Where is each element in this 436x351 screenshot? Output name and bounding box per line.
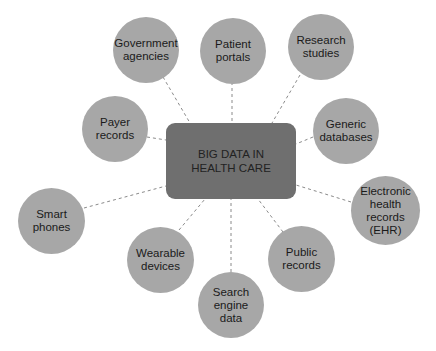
link-generic-databases	[296, 137, 313, 144]
node-electronic-health-records: Electronic health records (EHR)	[351, 176, 420, 245]
link-electronic-health-records	[296, 185, 351, 202]
link-wearable-devices	[179, 199, 205, 230]
node-payer-records: Payer records	[82, 96, 148, 162]
node-government-agencies: Government agencies	[113, 17, 179, 83]
link-research-studies	[272, 75, 300, 123]
node-label: Public records	[282, 246, 320, 272]
node-label: Wearable devices	[136, 247, 185, 273]
node-search-engine-data: Search engine data	[198, 272, 264, 338]
node-label: Patient portals	[215, 38, 251, 64]
node-label: Generic databases	[319, 118, 372, 144]
node-label: Payer records	[96, 116, 134, 142]
node-patient-portals: Patient portals	[200, 18, 266, 84]
node-wearable-devices: Wearable devices	[127, 227, 194, 293]
node-label: Search engine data	[213, 286, 249, 325]
node-label: Electronic health records (EHR)	[360, 185, 411, 237]
node-generic-databases: Generic databases	[313, 98, 379, 164]
link-public-records	[258, 199, 283, 232]
link-payer-records	[147, 137, 166, 140]
node-public-records: Public records	[268, 226, 335, 292]
diagram-canvas: BIG DATA IN HEALTH CARE Government agenc…	[0, 0, 436, 351]
link-smart-phones	[84, 186, 166, 208]
node-smart-phones: Smart phones	[18, 188, 85, 254]
link-government-agencies	[163, 77, 190, 123]
node-label: Government agencies	[114, 37, 177, 63]
hub-label: BIG DATA IN HEALTH CARE	[191, 147, 271, 175]
node-research-studies: Research studies	[288, 14, 354, 80]
central-hub-big-data: BIG DATA IN HEALTH CARE	[166, 123, 296, 199]
node-label: Smart phones	[33, 208, 71, 234]
node-label: Research studies	[296, 34, 345, 60]
